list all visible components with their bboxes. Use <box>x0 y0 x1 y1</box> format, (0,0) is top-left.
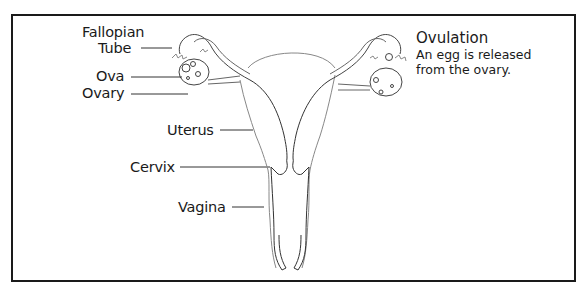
uterus-fundus <box>248 53 335 68</box>
caption-line-2: from the ovary. <box>416 62 531 77</box>
ovulation-caption: Ovulation An egg is released from the ov… <box>416 29 531 77</box>
uterus-outer-right <box>302 75 335 268</box>
caption-title: Ovulation <box>416 29 531 47</box>
label-fallopian-line1: Fallopian <box>82 25 144 40</box>
fallopian-tube-right <box>330 35 401 81</box>
label-cervix: Cervix <box>130 160 175 175</box>
label-uterus: Uterus <box>167 123 214 138</box>
label-tube: Tube <box>98 41 131 56</box>
uterus-outer-left <box>240 80 276 268</box>
label-vagina: Vagina <box>178 200 226 215</box>
label-fallopian-tube: Fallopian <box>82 25 144 40</box>
uterine-cavity <box>250 80 287 158</box>
ovary-left <box>179 59 209 85</box>
fallopian-tube-left <box>179 35 250 81</box>
caption-line-1: An egg is released <box>416 47 531 62</box>
label-ovary: Ovary <box>82 86 124 101</box>
label-ova: Ova <box>96 69 124 84</box>
